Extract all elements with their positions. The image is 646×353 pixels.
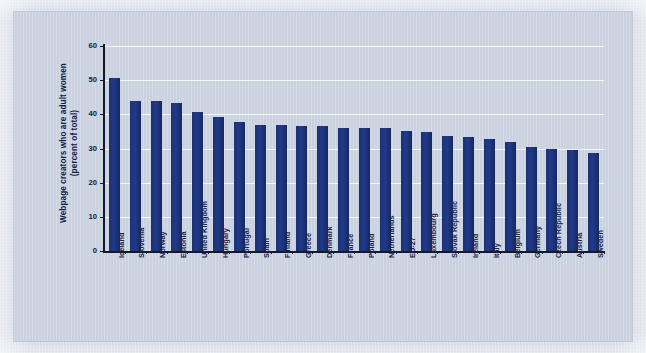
y-axis-line (103, 44, 105, 253)
y-axis-tick-mark (100, 217, 103, 218)
x-axis-tick-label: Iceland (118, 233, 126, 258)
x-axis-tick-label: Estonia (180, 231, 188, 258)
y-axis-tick-mark (100, 251, 103, 252)
x-axis-tick-label: Spain (263, 238, 271, 258)
gridline (104, 46, 604, 47)
bar (484, 139, 495, 251)
y-axis-tick-label: 30 (71, 145, 97, 153)
bar (401, 131, 412, 251)
x-axis-tick-label: Finland (284, 232, 292, 258)
x-axis-tick-label: Austria (576, 233, 584, 258)
y-axis-tick-mark (100, 80, 103, 81)
x-axis-tick-label: Sweden (597, 230, 605, 258)
x-axis-tick-label: Denmark (326, 226, 334, 258)
chart-figure: Webpage creators who are adult women (pe… (0, 0, 646, 353)
gridline (104, 80, 604, 81)
y-axis-tick-label: 10 (71, 213, 97, 221)
y-axis-tick-mark (100, 149, 103, 150)
x-axis-tick-label: Netherlands (388, 215, 396, 258)
x-axis-tick-label: EU-27 (409, 237, 417, 258)
y-axis-tick-label: 40 (71, 110, 97, 118)
x-axis-tick-label: Slovak Republic (451, 201, 459, 258)
bars-and-gridlines (104, 46, 604, 251)
x-axis-tick-label: Poland (368, 233, 376, 258)
y-axis-tick-label: 20 (71, 179, 97, 187)
bar (171, 103, 182, 251)
x-axis-tick-label: Norway (159, 231, 167, 258)
x-axis-tick-label: Czech Republic (555, 203, 563, 258)
x-axis-tick-label: France (347, 234, 355, 258)
bar (255, 125, 266, 251)
bar (109, 78, 120, 251)
y-axis-title-line-1: Webpage creators who are adult women (58, 63, 70, 223)
y-axis-tick-label: 0 (71, 247, 97, 255)
x-axis-tick-label: Germany (534, 226, 542, 258)
y-axis-tick-mark (100, 183, 103, 184)
y-axis-tick-label: 60 (71, 42, 97, 50)
chart-plot-area: Webpage creators who are adult women (pe… (0, 0, 646, 353)
bar (338, 128, 349, 251)
x-axis-tick-label: Italy (493, 243, 501, 258)
y-axis-tick-label: 50 (71, 76, 97, 84)
y-axis-tick-mark (100, 46, 103, 47)
x-axis-tick-label: Ireland (472, 234, 480, 258)
x-axis-tick-label: Slovenia (138, 228, 146, 258)
x-axis-tick-label: Greece (305, 233, 313, 258)
bar (151, 101, 162, 251)
x-axis-tick-label: Hungary (222, 228, 230, 258)
x-axis-tick-label: Portugal (243, 228, 251, 258)
y-axis-title-line-2: (percent of total) (69, 110, 81, 176)
x-axis-tick-label: United Kingdom (201, 201, 209, 258)
y-axis-tick-mark (100, 114, 103, 115)
x-axis-tick-label: Belgium (514, 229, 522, 258)
x-axis-tick-label: Luxembourg (430, 213, 438, 258)
